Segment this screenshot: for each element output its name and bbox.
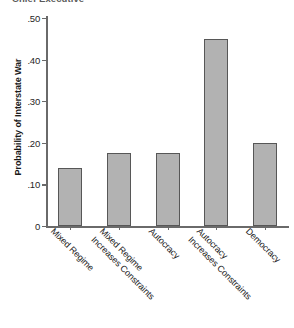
- x-axis-labels: Mixed RegimeMixed RegimeIncreases Constr…: [46, 226, 294, 328]
- y-tick-label: .30: [27, 96, 40, 107]
- x-axis-label-line: Mixed Regime: [49, 226, 96, 273]
- x-axis-label: Democracy: [243, 226, 283, 266]
- y-axis-line: [46, 16, 48, 228]
- y-tick-label: 0: [35, 221, 40, 232]
- y-tick-label: .40: [27, 54, 40, 65]
- chart-title: Chief Executive: [12, 0, 84, 4]
- bar: [58, 168, 82, 226]
- y-tick-mark: [42, 60, 47, 61]
- y-tick-mark: [42, 18, 47, 19]
- chart-figure: Chief Executive Probability of Interstat…: [0, 0, 294, 328]
- bar: [156, 153, 180, 226]
- bar: [107, 153, 131, 226]
- y-axis-title: Probability of Interstate War: [13, 37, 23, 197]
- x-axis-label: Autocracy: [145, 226, 181, 262]
- x-axis-label: Mixed Regime: [48, 226, 96, 274]
- bar: [204, 39, 228, 226]
- y-tick-mark: [42, 184, 47, 185]
- y-tick-label: .20: [27, 137, 40, 148]
- plot-area: .50.40.30.20.100: [46, 18, 289, 226]
- bar: [253, 143, 277, 226]
- x-axis-label-line: Democracy: [244, 226, 283, 265]
- y-tick-mark: [42, 101, 47, 102]
- y-tick-label: .50: [27, 13, 40, 24]
- y-tick-mark: [42, 143, 47, 144]
- y-tick-label: .10: [27, 179, 40, 190]
- x-axis-label-line: Autocracy: [146, 226, 181, 261]
